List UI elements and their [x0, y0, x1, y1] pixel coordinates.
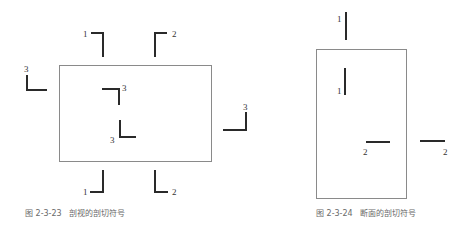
diagram-canvas: 12333312 1122 [0, 0, 462, 227]
figure-sectional-view-cut-symbols: 12333312 [24, 29, 248, 197]
caption-figure-2-3-24: 图 2-3-24 断面的剖切符号 [316, 209, 416, 219]
cut-3-inner-bottom-label: 3 [110, 135, 115, 145]
cut-1-bottom-mark [90, 170, 103, 192]
section-2-outer-label: 2 [443, 147, 448, 157]
cut-1-bottom-label: 1 [83, 187, 88, 197]
cut-1-top-label: 1 [83, 29, 88, 39]
figure-section-cut-symbols: 1122 [317, 12, 448, 199]
cut-2-top-mark [155, 33, 167, 57]
cut-1-top-mark [91, 33, 103, 57]
object-outline-rect [60, 66, 212, 162]
cut-2-bottom-label: 2 [172, 187, 177, 197]
cut-3-inner-top-mark [102, 89, 119, 105]
section-1-inner-label: 1 [337, 86, 342, 96]
cut-3-left-label: 3 [24, 64, 29, 74]
section-2-inner-label: 2 [363, 147, 368, 157]
cut-2-top-label: 2 [172, 29, 177, 39]
cut-2-bottom-mark [155, 170, 168, 192]
cut-3-inner-bottom-mark [120, 120, 136, 137]
cut-3-left-mark [27, 75, 47, 90]
cut-3-right-label: 3 [243, 102, 248, 112]
section-1-top-label: 1 [337, 14, 342, 24]
cut-3-inner-top-label: 3 [122, 83, 127, 93]
caption-figure-2-3-23: 图 2-3-23 剖视的剖切符号 [25, 209, 125, 219]
object-outline-rect [317, 50, 407, 199]
cut-3-right-mark [223, 112, 246, 130]
